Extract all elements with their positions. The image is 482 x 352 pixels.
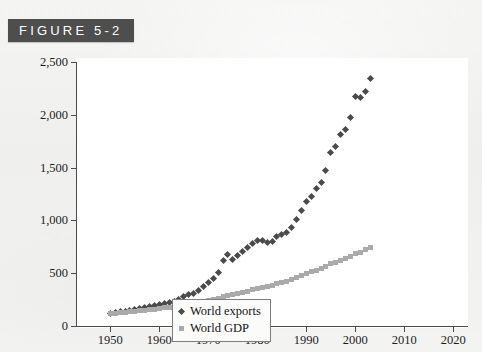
y-axis-tick xyxy=(71,220,77,221)
x-axis-tick xyxy=(110,326,111,332)
data-point xyxy=(219,256,226,263)
data-point xyxy=(332,143,339,150)
x-axis-label: 1960 xyxy=(147,333,172,348)
x-axis-label: 2020 xyxy=(441,333,466,348)
data-point xyxy=(317,179,324,186)
data-point xyxy=(322,167,329,174)
data-point xyxy=(298,207,305,214)
y-axis-label: 1,000 xyxy=(40,213,68,228)
x-axis-tick xyxy=(453,326,454,332)
figure-tag-label: FIGURE 5-2 xyxy=(19,23,123,38)
chart-legend: World exports World GDP xyxy=(172,299,271,342)
x-axis-tick xyxy=(306,326,307,332)
y-axis-tick xyxy=(71,273,77,274)
data-point xyxy=(368,245,373,250)
data-point xyxy=(288,224,295,231)
data-point xyxy=(337,131,344,138)
legend-label: World exports xyxy=(190,303,261,320)
plot-area: 05001,0001,5002,0002,500 xyxy=(76,62,468,326)
legend-item-world-gdp: World GDP xyxy=(179,320,261,337)
x-axis-line xyxy=(76,326,468,327)
y-axis-label: 2,500 xyxy=(40,55,68,70)
data-point xyxy=(308,193,315,200)
x-axis-tick xyxy=(355,326,356,332)
y-axis-tick xyxy=(71,115,77,116)
bleed-through-text xyxy=(200,6,206,18)
y-axis-tick xyxy=(71,326,77,327)
y-axis-label: 2,000 xyxy=(40,107,68,122)
x-axis-label: 2010 xyxy=(392,333,417,348)
data-point xyxy=(313,185,320,192)
legend-item-world-exports: World exports xyxy=(179,303,261,320)
figure-tag: FIGURE 5-2 xyxy=(8,19,134,42)
y-axis-label: 1,500 xyxy=(40,160,68,175)
y-axis-tick xyxy=(71,62,77,63)
data-point xyxy=(215,269,222,276)
diamond-marker-icon xyxy=(178,308,185,315)
data-point xyxy=(342,126,349,133)
x-axis-label: 2000 xyxy=(343,333,368,348)
x-axis-label: 1950 xyxy=(98,333,123,348)
data-point xyxy=(366,75,373,82)
data-point xyxy=(357,94,364,101)
data-point xyxy=(293,216,300,223)
x-axis-label: 1990 xyxy=(294,333,319,348)
x-axis-tick xyxy=(404,326,405,332)
x-axis-tick xyxy=(159,326,160,332)
data-point xyxy=(303,198,310,205)
data-point xyxy=(327,149,334,156)
legend-label: World GDP xyxy=(190,320,249,337)
y-axis-label: 500 xyxy=(49,266,68,281)
data-point xyxy=(362,87,369,94)
y-axis-tick xyxy=(71,168,77,169)
square-marker-icon xyxy=(179,326,184,331)
y-axis-label: 0 xyxy=(62,319,68,334)
data-point xyxy=(347,114,354,121)
chart-figure: 05001,0001,5002,0002,500 195019601970198… xyxy=(8,48,474,338)
